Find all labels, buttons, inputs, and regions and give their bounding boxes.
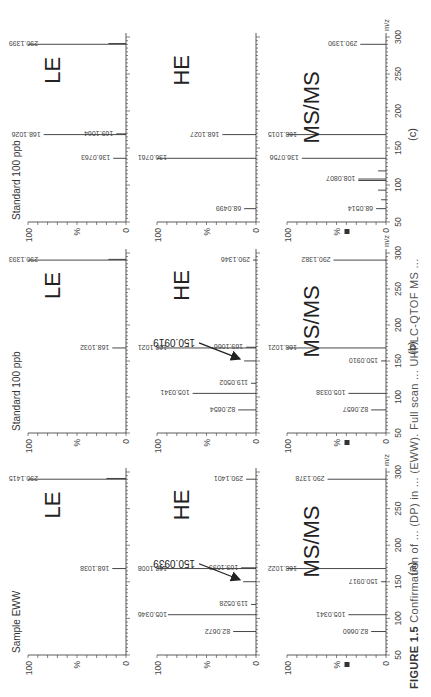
peak-label: 168.1026	[11, 131, 40, 138]
peak-label: 169.1066	[214, 343, 243, 350]
y-axis-label: %	[72, 661, 82, 669]
y-tick-0: 0	[251, 228, 261, 233]
x-tick-label: 50	[393, 428, 403, 438]
column-title: Standard 100 ppb	[11, 140, 22, 220]
peak-label: 150.0910	[349, 357, 378, 364]
panel-title: MS/MS	[299, 505, 324, 577]
peak-label: 119.0502	[219, 379, 248, 386]
y-tick-100: 100	[153, 439, 163, 453]
x-tick-label: 100	[393, 390, 403, 404]
x-tick-label: 200	[393, 104, 403, 118]
peak-label: 168.1021	[268, 344, 297, 351]
y-tick-0: 0	[121, 228, 131, 233]
peak-label: 136.0756	[270, 154, 299, 161]
panel-title: LE	[40, 272, 65, 299]
x-axis-label: m/z	[382, 19, 391, 31]
y-axis-label: %	[332, 439, 342, 447]
peak-label: 290.1401	[214, 475, 243, 482]
peak-label: 82.0654	[210, 406, 235, 413]
annotation-label: 150.0939	[153, 558, 195, 569]
x-tick-label: 300	[393, 465, 403, 479]
x-tick-label: 250	[393, 67, 403, 81]
peak-label: 68.0514	[348, 205, 373, 212]
panel-title: LE	[40, 57, 65, 84]
y-tick-100: 100	[24, 439, 34, 453]
annotation-label: 150.0919	[153, 337, 195, 348]
spectrum-panel-a-he: 100%082.0672105.0346119.0528168.1008169.…	[138, 468, 261, 675]
peak-label: 150.0917	[349, 578, 378, 585]
y-axis-label: %	[72, 439, 82, 447]
x-tick-label: 150	[393, 141, 403, 155]
column-title: Standard 100 ppb	[11, 351, 22, 431]
y-tick-0: 0	[381, 661, 391, 666]
peak-label: 290.1390	[328, 40, 357, 47]
mass-spectra-figure: 100%0168.1038290.1415LESample EWW100%082…	[0, 0, 431, 697]
y-axis-label: %	[202, 661, 212, 669]
spectrum-panel-c-he: 100%068.0499136.0761168.1027HE	[138, 33, 261, 242]
x-axis-label: m/z	[382, 235, 391, 247]
panel-title: MS/MS	[299, 71, 324, 143]
peak-label: 136.0761	[138, 154, 167, 161]
panel-title: HE	[169, 490, 194, 521]
x-tick-label: 250	[393, 501, 403, 515]
panel-title: HE	[169, 270, 194, 301]
peak-label: 290.1393	[9, 256, 38, 263]
x-tick-label: 200	[393, 538, 403, 552]
x-axis-label: m/z	[382, 454, 391, 466]
caption-text: Confirmation of ... (DP) in ... (EWW). F…	[408, 258, 420, 622]
panel-title: MS/MS	[299, 285, 324, 357]
x-tick-label: 50	[393, 217, 403, 227]
peak-label: 169.1064	[84, 130, 113, 137]
figure-stage: 100%0168.1038290.1415LESample EWW100%082…	[0, 0, 431, 697]
column-title: Sample EWW	[11, 590, 22, 653]
y-axis-label: %	[332, 228, 342, 236]
spectrum-panel-b-he: 100%082.0654105.0341119.0502168.1021169.…	[138, 249, 261, 453]
y-axis-label: %	[202, 228, 212, 236]
y-tick-0: 0	[121, 661, 131, 666]
peak-label: 168.1022	[268, 565, 297, 572]
x-tick-label: 250	[393, 282, 403, 296]
y-tick-0: 0	[381, 439, 391, 444]
x-tick-label: 150	[393, 574, 403, 588]
y-tick-0: 0	[251, 439, 261, 444]
spectrum-panel-a-le: 100%0168.1038290.1415LESample EWW	[9, 468, 131, 675]
x-tick-label: 300	[393, 30, 403, 44]
y-tick-100: 100	[283, 228, 293, 242]
peak-label: 290.1346	[221, 256, 250, 263]
x-tick-label: 200	[393, 318, 403, 332]
spectrum-panel-b-le: 100%0168.1032290.1393LEStandard 100 ppb	[9, 249, 131, 453]
peak-label: 290.1399	[9, 40, 38, 47]
x-tick-label: 100	[393, 611, 403, 625]
y-axis-label: %	[332, 661, 342, 669]
peak-label: 68.0499	[216, 205, 241, 212]
y-tick-100: 100	[283, 661, 293, 675]
spectrum-panel-c-le: 100%0136.0763168.1026169.1064290.1399LES…	[9, 33, 131, 242]
y-tick-0: 0	[121, 439, 131, 444]
x-tick-label: 100	[393, 178, 403, 192]
peak-label: 105.0338	[316, 389, 345, 396]
panel-title: LE	[40, 491, 65, 518]
peak-label: 82.0672	[205, 628, 230, 635]
marker-square-icon	[345, 662, 350, 667]
spectrum-panel-a-msms: 100%050100150200250300m/z82.0660105.0341…	[268, 454, 418, 676]
x-tick-label: 300	[393, 246, 403, 260]
y-tick-100: 100	[283, 439, 293, 453]
peak-label: 105.0346	[138, 611, 167, 618]
y-axis-label: %	[72, 228, 82, 236]
peak-label: 82.0657	[343, 406, 368, 413]
figure-caption: FIGURE 1.5 Confirmation of ... (DP) in .…	[408, 0, 420, 689]
peak-label: 82.0660	[343, 628, 368, 635]
peak-label: 168.1027	[190, 131, 219, 138]
x-tick-label: 50	[393, 650, 403, 660]
y-axis-label: %	[202, 439, 212, 447]
caption-label: FIGURE 1.5	[408, 626, 420, 689]
spectrum-panel-c-msms: 100%050100150200250300m/z68.0514108.0807…	[268, 19, 418, 243]
y-tick-100: 100	[153, 228, 163, 242]
y-tick-100: 100	[153, 661, 163, 675]
y-tick-100: 100	[24, 661, 34, 675]
y-tick-0: 0	[381, 228, 391, 233]
x-tick-label: 150	[393, 354, 403, 368]
marker-square-icon	[345, 229, 350, 234]
marker-square-icon	[345, 440, 350, 445]
y-tick-100: 100	[24, 228, 34, 242]
